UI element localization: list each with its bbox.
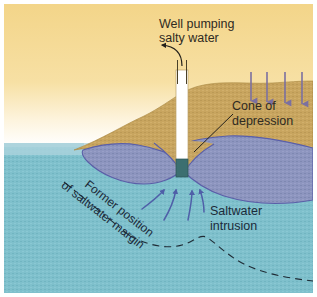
well-screen: [176, 159, 188, 177]
cone-label-line1: Cone of: [232, 99, 276, 113]
well-title-line1: Well pumping: [159, 17, 235, 31]
intrusion-label-line1: Saltwater: [210, 204, 262, 218]
cross-section-diagram: Well pumping salty water Cone of depress…: [4, 4, 313, 293]
diagram-stage: Well pumping salty water Cone of depress…: [4, 4, 313, 293]
cone-label-line2: depression: [232, 114, 293, 128]
well-casing: [176, 70, 188, 166]
sea-surface-strip: [4, 143, 84, 155]
figure-root: Well pumping salty water Cone of depress…: [0, 0, 317, 297]
well-title-line2: salty water: [159, 31, 219, 45]
intrusion-label-line2: intrusion: [210, 219, 257, 233]
